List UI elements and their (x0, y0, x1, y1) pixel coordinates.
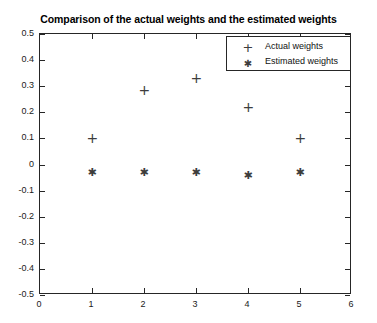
x-tick-top (144, 34, 145, 39)
x-tick-label: 2 (133, 299, 153, 309)
y-tick-label: 0.1 (0, 132, 34, 142)
y-tick-right (345, 269, 350, 270)
y-tick (40, 138, 45, 139)
x-tick-label: 3 (185, 299, 205, 309)
y-tick (40, 34, 45, 35)
actual-weight-point (243, 102, 254, 113)
legend-label-actual: Actual weights (265, 39, 323, 54)
y-tick (40, 191, 45, 192)
y-tick-label: -0.3 (0, 237, 34, 247)
estimated-weight-point (243, 169, 254, 180)
y-tick (40, 165, 45, 166)
legend-label-estimated: Estimated weights (265, 54, 338, 69)
y-tick-label: 0.2 (0, 106, 34, 116)
legend-entry-estimated: Estimated weights (227, 54, 352, 69)
x-tick (144, 288, 145, 293)
estimated-weight-point (295, 166, 306, 177)
estimated-weight-point (87, 166, 98, 177)
y-tick-right (345, 112, 350, 113)
y-tick-label: -0.5 (0, 289, 34, 299)
y-tick-label: 0.5 (0, 28, 34, 38)
y-tick-right (345, 217, 350, 218)
x-tick-label: 5 (289, 299, 309, 309)
y-tick-right (345, 191, 350, 192)
asterisk-marker-icon (241, 54, 255, 71)
x-tick-top (196, 34, 197, 39)
y-tick-right (345, 295, 350, 296)
actual-weight-point (295, 133, 306, 144)
chart-legend: Actual weights Estimated weights (226, 36, 351, 71)
plus-marker-icon (241, 39, 255, 55)
y-tick-label: 0.3 (0, 80, 34, 90)
figure-canvas: Comparison of the actual weights and the… (0, 0, 377, 323)
plot-area (39, 33, 351, 294)
legend-entry-actual: Actual weights (227, 39, 352, 54)
x-tick (300, 288, 301, 293)
page-title: Comparison of the actual weights and the… (0, 13, 377, 25)
y-tick-label: -0.4 (0, 263, 34, 273)
y-tick-right (345, 138, 350, 139)
y-tick-right (345, 243, 350, 244)
y-tick (40, 295, 45, 296)
y-tick-right (345, 165, 350, 166)
y-tick-label: 0.4 (0, 54, 34, 64)
y-tick-right (345, 34, 350, 35)
y-tick-label: -0.2 (0, 211, 34, 221)
x-tick-label: 6 (341, 299, 361, 309)
x-tick-label: 1 (81, 299, 101, 309)
y-tick-right (345, 86, 350, 87)
x-tick-label: 4 (237, 299, 257, 309)
y-tick (40, 112, 45, 113)
y-tick-label: -0.1 (0, 185, 34, 195)
actual-weight-point (139, 85, 150, 96)
x-tick (248, 288, 249, 293)
x-tick (92, 288, 93, 293)
estimated-weight-point (191, 166, 202, 177)
x-tick-top (92, 34, 93, 39)
x-tick (196, 288, 197, 293)
estimated-weight-point (139, 166, 150, 177)
actual-weight-point (191, 73, 202, 84)
y-tick (40, 60, 45, 61)
y-tick (40, 217, 45, 218)
y-tick (40, 86, 45, 87)
y-tick-label: 0 (0, 159, 34, 169)
y-tick (40, 269, 45, 270)
y-tick (40, 243, 45, 244)
x-tick-label: 0 (29, 299, 49, 309)
actual-weight-point (87, 133, 98, 144)
